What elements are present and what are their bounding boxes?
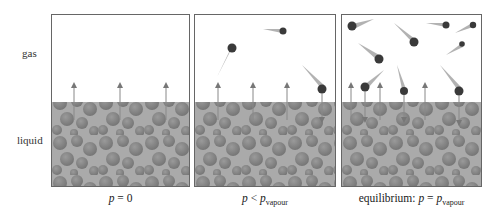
caption-operator: = — [424, 192, 436, 204]
gas-molecule-comet — [394, 23, 419, 47]
gas-molecule-comet — [358, 43, 384, 64]
panel-3-illustration — [342, 15, 482, 187]
liquid-label: liquid — [17, 134, 43, 146]
panel-below-vapour-pressure — [194, 14, 336, 187]
caption-rhs: 0 — [127, 192, 133, 204]
panel-equilibrium — [341, 14, 482, 187]
caption-panel-2: p < pvapour — [194, 192, 336, 207]
gas-label: gas — [22, 47, 37, 59]
caption-panel-3: equilibrium: p = pvapour — [341, 192, 482, 207]
gas-molecule-comet — [348, 19, 375, 31]
caption-operator: < — [248, 192, 260, 204]
gas-molecule-comet — [446, 41, 465, 55]
liquid-region — [195, 102, 336, 187]
caption-panel-1: p = 0 — [51, 192, 190, 207]
gas-molecule-comet — [426, 22, 450, 29]
caption-prefix: equilibrium: — [359, 192, 419, 204]
gas-molecule-comet — [263, 28, 287, 35]
caption-operator: = — [114, 192, 126, 204]
panel-no-vapour — [51, 14, 190, 187]
caption-subscript: vapour — [442, 198, 464, 207]
gas-molecule-comet — [455, 22, 476, 33]
panel-1-illustration — [52, 15, 190, 187]
panel-2-illustration — [195, 15, 336, 187]
liquid-region — [342, 102, 482, 187]
liquid-region — [52, 102, 190, 187]
caption-subscript: vapour — [266, 198, 288, 207]
gas-molecule-comet — [217, 44, 237, 78]
